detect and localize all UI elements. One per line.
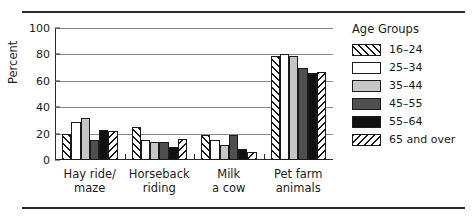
bar-group-bars	[264, 28, 334, 160]
legend-swatch	[352, 62, 381, 74]
bar	[150, 142, 159, 160]
bar	[210, 140, 219, 160]
legend-label: 35–44	[389, 79, 423, 92]
y-tick-label: 0	[16, 154, 50, 167]
bar	[201, 135, 210, 160]
x-axis-label-line: Horseback	[129, 167, 190, 181]
x-axis-label-line: Hay ride/	[64, 167, 116, 181]
legend-entry: 65 and over	[352, 133, 470, 146]
legend-label: 25–34	[389, 61, 423, 74]
bar	[298, 68, 307, 160]
bar	[229, 135, 238, 160]
bar	[178, 139, 187, 160]
bar-group-bars	[125, 28, 195, 160]
bar	[280, 54, 289, 160]
y-tick-label: 100	[16, 22, 50, 35]
bar	[247, 152, 256, 160]
x-axis-label: Milka cow	[212, 167, 245, 196]
legend-title: Age Groups	[352, 22, 470, 36]
x-axis-label-line: a cow	[212, 181, 245, 195]
bar	[220, 145, 229, 160]
figure-bottom-rule	[22, 207, 465, 209]
x-axis-label-line: maze	[64, 181, 116, 195]
legend-entry: 55–64	[352, 115, 470, 128]
figure-top-rule	[22, 11, 465, 13]
y-tick-label: 80	[16, 48, 50, 61]
bar	[90, 140, 99, 160]
group-separator	[264, 154, 265, 160]
y-tick-label: 20	[16, 127, 50, 140]
group-separator	[125, 154, 126, 160]
bar-group: Pet farmanimals	[264, 28, 334, 160]
x-axis-label-line: Pet farm	[274, 167, 323, 181]
bar	[132, 127, 141, 160]
bar	[308, 73, 317, 160]
x-axis-label: Horsebackriding	[129, 167, 190, 196]
legend-entry: 16–24	[352, 43, 470, 56]
legend-label: 55–64	[389, 115, 423, 128]
y-tick-label: 40	[16, 101, 50, 114]
x-axis-label-line: riding	[129, 181, 190, 195]
legend-entry: 35–44	[352, 79, 470, 92]
legend: Age Groups 16–2425–3435–4445–5555–6465 a…	[352, 22, 470, 151]
bar-group-bars	[55, 28, 125, 160]
legend-label: 16–24	[389, 43, 423, 56]
bar	[169, 147, 178, 160]
x-axis-label: Pet farmanimals	[274, 167, 323, 196]
legend-swatch	[352, 134, 381, 146]
chart-figure: Percent 020406080100 Hay ride/mazeHorseb…	[0, 0, 475, 220]
x-axis-label-line: Milk	[212, 167, 245, 181]
legend-swatch	[352, 44, 381, 56]
legend-swatch	[352, 80, 381, 92]
legend-entry: 25–34	[352, 61, 470, 74]
legend-entry: 45–55	[352, 97, 470, 110]
bar	[62, 134, 71, 160]
bar-group: Horsebackriding	[125, 28, 195, 160]
legend-entries: 16–2425–3435–4445–5555–6465 and over	[352, 43, 470, 146]
legend-label: 45–55	[389, 97, 423, 110]
bar	[317, 72, 326, 160]
legend-swatch	[352, 98, 381, 110]
bar-group: Hay ride/maze	[55, 28, 125, 160]
x-axis-label: Hay ride/maze	[64, 167, 116, 196]
bar-group-bars	[194, 28, 264, 160]
bar-groups: Hay ride/mazeHorsebackridingMilka cowPet…	[55, 28, 333, 160]
plot-area: 020406080100 Hay ride/mazeHorsebackridin…	[55, 28, 333, 160]
bar	[238, 149, 247, 160]
x-axis-label-line: animals	[274, 181, 323, 195]
bar	[141, 140, 150, 160]
bar-group: Milka cow	[194, 28, 264, 160]
bar	[81, 118, 90, 160]
y-tick-label: 60	[16, 74, 50, 87]
bar	[159, 142, 168, 160]
bar	[289, 56, 298, 160]
bar	[71, 122, 80, 160]
legend-label: 65 and over	[389, 133, 455, 146]
bar	[271, 56, 280, 160]
bar	[99, 130, 108, 160]
group-separator	[194, 154, 195, 160]
bar	[108, 131, 117, 160]
legend-swatch	[352, 116, 381, 128]
